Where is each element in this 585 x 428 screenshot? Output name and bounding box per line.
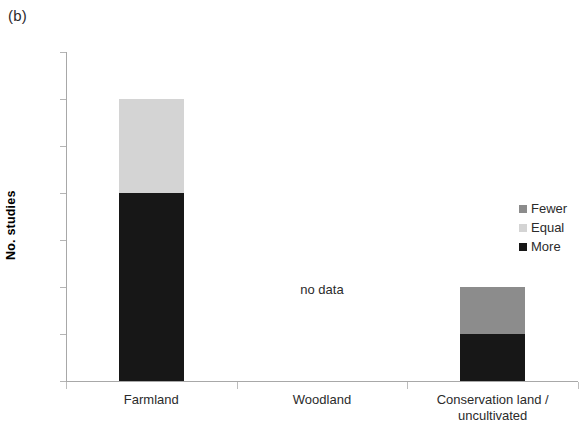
bar-segment (119, 99, 184, 193)
legend-swatch-equal-icon (519, 224, 527, 232)
x-tick-mark (407, 382, 408, 389)
bar-segment (460, 334, 525, 381)
x-category-label-line: uncultivated (407, 408, 578, 424)
plot-area (66, 52, 578, 381)
legend-label-equal: Equal (531, 220, 564, 235)
x-tick-mark (578, 382, 579, 389)
panel-label: (b) (8, 7, 27, 24)
bar-segment (119, 193, 184, 381)
x-category-label: Farmland (66, 392, 237, 408)
legend-item-more: More (519, 237, 567, 256)
x-tick-mark (237, 382, 238, 389)
x-tick-mark (66, 382, 67, 389)
chart-legend: Fewer Equal More (519, 199, 567, 256)
x-axis-line (66, 381, 578, 382)
legend-item-fewer: Fewer (519, 199, 567, 218)
x-category-label-line: Farmland (66, 392, 237, 408)
x-category-label-line: Woodland (237, 392, 408, 408)
legend-label-more: More (531, 239, 561, 254)
y-axis-title: No. studies (2, 170, 20, 280)
x-category-label: Woodland (237, 392, 408, 408)
legend-label-fewer: Fewer (531, 201, 567, 216)
x-category-label: Conservation land /uncultivated (407, 392, 578, 424)
legend-item-equal: Equal (519, 218, 567, 237)
no-data-annotation: no data (237, 282, 408, 297)
legend-swatch-more-icon (519, 243, 527, 251)
bar-segment (460, 287, 525, 334)
x-category-label-line: Conservation land / (407, 392, 578, 408)
legend-swatch-fewer-icon (519, 205, 527, 213)
